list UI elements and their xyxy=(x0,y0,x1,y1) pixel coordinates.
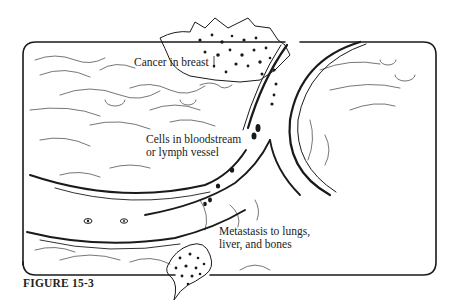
label-line-1: Metastasis to lungs, xyxy=(219,225,310,238)
vessel-wall-right xyxy=(290,42,361,195)
label-line-2: liver, and bones xyxy=(219,238,310,251)
vessel-lower-curve xyxy=(27,210,245,243)
label-cells-in-bloodstream: Cells in bloodstream or lymph vessel xyxy=(146,133,241,159)
label-line-2: or lymph vessel xyxy=(146,146,241,159)
label-text: Cancer in breast xyxy=(134,56,209,68)
figure-caption: FIGURE 15-3 xyxy=(23,277,94,289)
label-cancer-in-breast: Cancer in breast xyxy=(134,56,209,69)
metastatic-tumor-mass xyxy=(167,244,212,300)
figure-15-3: Cancer in breast Cells in bloodstream or… xyxy=(0,0,458,307)
label-line-1: Cells in bloodstream xyxy=(146,133,241,146)
vessel-wall-upper-left xyxy=(248,45,287,128)
label-metastasis: Metastasis to lungs, liver, and bones xyxy=(219,225,310,251)
